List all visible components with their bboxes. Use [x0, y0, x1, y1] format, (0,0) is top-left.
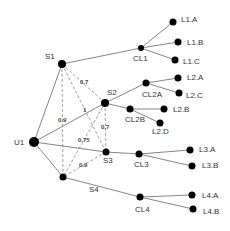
nodes: [29, 19, 197, 213]
node-label-l2-c: L2.C: [186, 91, 203, 100]
node-label-u1: U1: [14, 138, 25, 147]
edge-weight-s2-s4: 0.75: [78, 137, 90, 143]
edge-cl1-l1-a: [141, 22, 173, 48]
node-label-l2-b: L2.B: [173, 105, 189, 114]
edge-u1-s3: [34, 142, 106, 152]
edge-u1-s1: [34, 64, 62, 142]
node-l1-c: [172, 57, 179, 64]
node-label-s4: S4: [89, 185, 99, 194]
node-label-l2-a: L2.A: [187, 73, 204, 82]
edge-s3-cl3: [106, 152, 139, 154]
node-l1-b: [175, 39, 182, 46]
edge-weights: 0.710.90.70.750.9: [58, 79, 110, 168]
edge-weight-s1-s3: 1: [83, 107, 87, 113]
node-s3: [103, 149, 110, 156]
node-s2: [101, 99, 109, 107]
node-label-cl4: CL4: [135, 205, 150, 214]
edge-cl3-l3-a: [139, 150, 190, 154]
node-l2-a: [175, 75, 182, 82]
node-label-cl2b: CL2B: [125, 115, 145, 124]
node-u1: [29, 137, 39, 147]
edge-s4-cl4: [63, 177, 140, 197]
edge-cl4-l4-a: [140, 195, 192, 197]
node-l3-a: [187, 147, 194, 154]
node-label-cl1: CL1: [133, 54, 148, 63]
edge-s1-cl1: [62, 48, 141, 64]
node-label-cl3: CL3: [134, 160, 149, 169]
tree-edges: [34, 22, 193, 209]
node-label-l1-a: L1.A: [181, 15, 198, 24]
node-cl3: [136, 151, 143, 158]
node-label-s3: S3: [103, 156, 113, 165]
node-l2-c: [176, 90, 183, 97]
node-label-cl2a: CL2A: [142, 90, 163, 99]
edge-weight-s2-s3: 0.7: [101, 124, 110, 130]
node-l4-b: [190, 206, 197, 213]
node-labels: U1S1S2S3S4CL1L1.AL1.BL1.CCL2AL2.AL2.CCL2…: [14, 15, 219, 216]
edge-cl2a-l2-a: [146, 78, 178, 83]
node-label-l4-a: L4.A: [202, 191, 219, 200]
edge-cl1-l1-b: [141, 42, 178, 48]
node-label-l4-b: L4.B: [203, 207, 219, 216]
edge-weight-s1-s2: 0.7: [80, 79, 89, 85]
node-s1: [58, 60, 66, 68]
node-cl4: [137, 194, 144, 201]
node-label-l1-b: L1.B: [187, 38, 203, 47]
diagram-canvas: 0.710.90.70.750.9 U1S1S2S3S4CL1L1.AL1.BL…: [0, 0, 230, 231]
node-cl1: [138, 45, 144, 51]
node-label-l1-c: L1.C: [183, 57, 200, 66]
node-label-s1: S1: [45, 52, 55, 61]
node-label-l3-a: L3.A: [199, 145, 216, 154]
node-label-l2-d: L2.D: [152, 127, 169, 136]
node-l3-b: [189, 163, 196, 170]
edge-u1-s4: [34, 142, 63, 177]
node-label-l3-b: L3.B: [202, 161, 218, 170]
node-l2-b: [161, 106, 168, 113]
edge-weight-s3-s4: 0.9: [79, 162, 88, 168]
node-l2-d: [157, 120, 164, 127]
network-diagram: 0.710.90.70.750.9 U1S1S2S3S4CL1L1.AL1.BL…: [0, 0, 230, 231]
node-l4-a: [189, 192, 196, 199]
node-l1-a: [170, 19, 177, 26]
node-s4: [60, 174, 67, 181]
edge-weight-s1-s4: 0.9: [58, 117, 67, 123]
node-label-s2: S2: [107, 88, 117, 97]
node-cl2a: [143, 80, 150, 87]
node-cl2b: [127, 106, 134, 113]
